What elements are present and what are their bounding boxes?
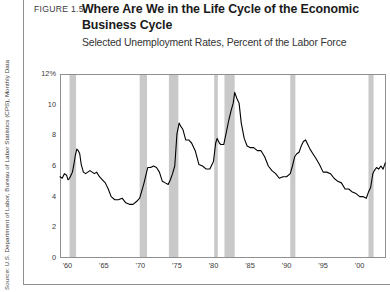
x-axis-tick-label: '70	[128, 262, 152, 270]
y-axis-tick-label: 12%	[30, 70, 56, 78]
figure-title-block: Where Are We in the Life Cycle of the Ec…	[82, 2, 382, 50]
recession-band	[368, 74, 373, 258]
x-axis-tick-label: '90	[275, 262, 299, 270]
y-axis-tick-label: 8	[30, 131, 56, 139]
recession-band	[214, 74, 218, 258]
y-axis-tick-label: 6	[30, 162, 56, 170]
recession-band	[140, 74, 147, 258]
x-axis-tick-label: '85	[238, 262, 262, 270]
x-axis-tick-label: '60	[55, 262, 79, 270]
x-axis-tick-label: '00	[348, 262, 372, 270]
figure-subtitle: Selected Unemployment Rates, Percent of …	[82, 35, 382, 50]
source-note: Source: U.S. Department of Labor, Bureau…	[0, 0, 14, 292]
x-axis-tick-label: '80	[201, 262, 225, 270]
x-axis-tick-label: '95	[311, 262, 335, 270]
figure-title-line-1: Where Are We in the Life Cycle of the Ec…	[82, 2, 382, 18]
recession-bands-group	[70, 74, 374, 258]
unemployment-line-chart	[28, 68, 386, 268]
figure-title-line-2: Business Cycle	[82, 18, 382, 34]
y-axis-tick-label: 4	[30, 193, 56, 201]
x-axis-tick-label: '75	[165, 262, 189, 270]
x-axis-tick-label: '65	[92, 262, 116, 270]
figure-number-label: FIGURE 1.5	[34, 4, 84, 14]
y-axis-tick-label: 10	[30, 101, 56, 109]
y-axis-tick-label: 2	[30, 223, 56, 231]
y-axis-tick-label: 0	[30, 254, 56, 262]
unemployment-rate-line	[60, 92, 385, 204]
chart-area: 024681012% '60'65'70'75'80'85'90'95'00	[28, 68, 386, 268]
recession-band	[70, 74, 77, 258]
recession-band	[169, 74, 179, 258]
plot-border	[61, 75, 386, 258]
